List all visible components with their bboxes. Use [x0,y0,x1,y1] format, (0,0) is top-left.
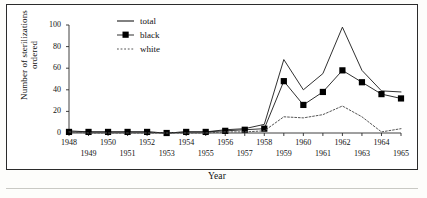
marker-black-1954 [183,129,189,135]
chart-frame: Number of sterilizations ordered Year 02… [6,4,418,170]
x-tick-label-1958: 1958 [251,138,277,147]
page-rule [6,188,418,189]
series-line-black [69,70,401,133]
x-tick-label-1955: 1955 [193,149,219,158]
legend-label-white: white [140,44,160,54]
x-tick-label-1951: 1951 [115,149,141,158]
x-tick-label-1948: 1948 [56,138,82,147]
x-tick-label-1959: 1959 [271,149,297,158]
marker-black-1962 [339,67,345,73]
y-tick-label-0: 0 [39,128,61,137]
y-tick-label-80: 80 [39,42,61,51]
x-tick-label-1965: 1965 [388,149,414,158]
x-tick-label-1957: 1957 [232,149,258,158]
legend-marks [117,21,134,49]
marker-black-1951 [124,129,130,135]
x-tick-label-1962: 1962 [329,138,355,147]
x-tick-label-1963: 1963 [349,149,375,158]
marker-black-1955 [203,129,209,135]
marker-black-1961 [320,89,326,95]
marker-black-1950 [105,129,111,135]
figure-panel: Number of sterilizations ordered Year 02… [0,0,427,198]
data-series-layer [66,27,404,136]
y-tick-label-60: 60 [39,63,61,72]
axis-lines [69,25,401,133]
marker-black-1956 [222,128,228,134]
marker-black-1960 [300,102,306,108]
legend-swatch-black-marker [123,32,129,38]
marker-black-1952 [144,129,150,135]
x-tick-label-1952: 1952 [134,138,160,147]
y-tick-label-100: 100 [39,20,61,29]
marker-black-1963 [359,79,365,85]
legend-label-total: total [140,16,156,26]
x-tick-label-1960: 1960 [290,138,316,147]
y-axis-title: Number of sterilizations ordered [19,0,39,110]
x-tick-label-1961: 1961 [310,149,336,158]
marker-black-1964 [378,91,384,97]
x-axis-title: Year [157,171,277,181]
marker-black-1959 [281,78,287,84]
series-line-total [69,27,401,133]
x-tick-label-1956: 1956 [212,138,238,147]
x-tick-label-1953: 1953 [154,149,180,158]
x-tick-label-1950: 1950 [95,138,121,147]
legend-label-black: black [140,30,160,40]
x-tick-label-1954: 1954 [173,138,199,147]
y-tick-label-40: 40 [39,85,61,94]
y-tick-label-20: 20 [39,106,61,115]
marker-black-1965 [398,95,404,101]
marker-black-1949 [85,129,91,135]
x-tick-label-1964: 1964 [368,138,394,147]
x-tick-label-1949: 1949 [76,149,102,158]
